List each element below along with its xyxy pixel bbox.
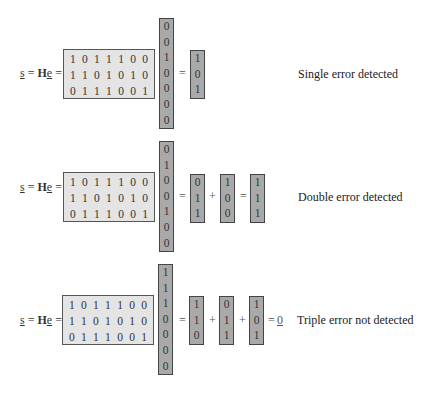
syndrome-vector: 101 (190, 50, 205, 99)
plus-operator: + (209, 313, 216, 328)
column-term: 110 (189, 296, 204, 345)
equals-sign: = (25, 313, 38, 327)
column-term: 100 (220, 174, 235, 223)
zero-vector: 0 (277, 313, 283, 328)
syndrome-vector: 111 (250, 174, 265, 223)
equals-sign: = (52, 66, 62, 80)
matrix-row: 1101010 (64, 190, 154, 206)
equals-operator: = (179, 189, 186, 204)
equals-sign: = (25, 66, 38, 80)
equals-sign: = (52, 313, 62, 327)
error-vector: 1110000 (158, 264, 173, 375)
equals-sign: = (25, 180, 38, 194)
error-vector: 0010000 (159, 18, 174, 129)
error-vector: 0100100 (159, 141, 174, 252)
result-label: Triple error not detected (297, 313, 414, 328)
matrix-row: 0111001 (64, 83, 154, 99)
parity-check-matrix: 1011100 1101010 0111001 (63, 172, 155, 222)
plus-operator: + (239, 313, 246, 328)
equals-operator: = (268, 313, 275, 328)
matrix-row: 0111001 (64, 206, 154, 222)
parity-check-matrix: 1011100 1101010 0111001 (62, 295, 154, 345)
parity-matrix-symbol: H (37, 313, 46, 327)
equals-operator: = (240, 189, 247, 204)
plus-operator: + (209, 189, 216, 204)
column-term: 101 (249, 296, 264, 345)
result-label: Single error detected (298, 67, 398, 82)
matrix-row: 0111001 (63, 329, 153, 345)
matrix-row: 1011100 (64, 174, 154, 190)
column-term: 011 (190, 174, 205, 223)
matrix-row: 1101010 (63, 313, 153, 329)
result-label: Double error detected (298, 190, 403, 205)
matrix-row: 1011100 (63, 297, 153, 313)
parity-matrix-symbol: H (37, 66, 46, 80)
syndrome-lhs: s = He = (20, 313, 62, 328)
equals-sign: = (52, 180, 62, 194)
syndrome-lhs: s = He = (20, 180, 62, 195)
matrix-row: 1011100 (64, 51, 154, 67)
syndrome-lhs: s = He = (20, 66, 62, 81)
equals-operator: = (179, 313, 186, 328)
equals-operator: = (179, 66, 186, 81)
parity-matrix-symbol: H (37, 180, 46, 194)
parity-check-matrix: 1011100 1101010 0111001 (63, 49, 155, 99)
column-term: 011 (219, 296, 234, 345)
matrix-row: 1101010 (64, 67, 154, 83)
